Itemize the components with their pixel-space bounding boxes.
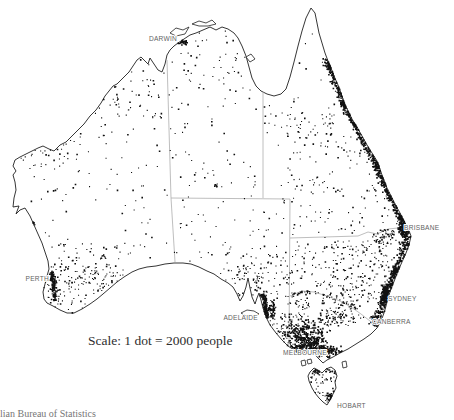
island-outline xyxy=(192,20,216,26)
scale-caption: Scale: 1 dot = 2000 people xyxy=(88,333,232,349)
city-label-sydney: SYDNEY xyxy=(388,295,417,302)
city-label-hobart: HOBART xyxy=(337,402,366,409)
australia-population-map: DARWINPERTHADELAIDEMELBOURNEHOBARTCANBER… xyxy=(0,0,454,420)
city-label-adelaide: ADELAIDE xyxy=(223,314,258,321)
island-outline xyxy=(301,360,306,366)
mainland-outline xyxy=(13,8,411,363)
city-label-melbourne: MELBOURNE xyxy=(283,349,327,356)
city-label-canberra: CANBERRA xyxy=(372,318,411,325)
map-canvas: DARWINPERTHADELAIDEMELBOURNEHOBARTCANBER… xyxy=(0,0,454,420)
city-label-perth: PERTH xyxy=(26,275,49,282)
city-label-darwin: DARWIN xyxy=(149,35,177,42)
city-label-brisbane: BRISBANE xyxy=(404,224,440,231)
island-outline xyxy=(307,359,312,364)
island-outline xyxy=(342,361,347,368)
source-caption: lian Bureau of Statistics xyxy=(0,408,96,419)
